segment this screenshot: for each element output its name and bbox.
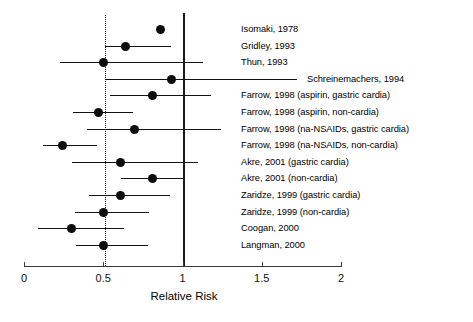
study-row: Gridley, 1993 — [0, 39, 473, 55]
axis-tick — [183, 262, 184, 267]
study-label: Schreinemachers, 1994 — [307, 72, 404, 87]
point-estimate-marker — [99, 241, 108, 250]
confidence-interval-line — [76, 245, 147, 246]
study-row: Langman, 2000 — [0, 238, 473, 254]
study-label: Farrow, 1998 (na-NSAIDs, gastric cardia) — [241, 122, 409, 137]
study-row: Coogan, 2000 — [0, 221, 473, 237]
study-label: Coogan, 2000 — [241, 221, 299, 236]
x-axis: 00.511.52 Relative Risk — [0, 266, 473, 322]
study-row: Farrow, 1998 (aspirin, non-cardia) — [0, 105, 473, 121]
confidence-interval-line — [105, 79, 297, 80]
confidence-interval-line — [110, 95, 211, 96]
study-row: Thun, 1993 — [0, 55, 473, 71]
study-row: Zaridze, 1999 (non-cardia) — [0, 205, 473, 221]
point-estimate-marker — [116, 191, 125, 200]
axis-tick-label: 0.5 — [96, 272, 111, 284]
point-estimate-marker — [116, 158, 125, 167]
study-label: Gridley, 1993 — [241, 39, 295, 54]
forest-plot-figure: Isomaki, 1978Gridley, 1993Thun, 1993Schr… — [0, 0, 473, 322]
axis-tick — [103, 262, 104, 267]
confidence-interval-line — [72, 162, 199, 163]
confidence-interval-line — [75, 212, 149, 213]
confidence-interval-line — [105, 46, 172, 47]
confidence-interval-line — [89, 195, 170, 196]
study-row: Farrow, 1998 (na-NSAIDs, non-cardia) — [0, 138, 473, 154]
point-estimate-marker — [121, 42, 130, 51]
study-label: Akre, 2001 (non-cardia) — [241, 171, 338, 186]
study-row: Zaridze, 1999 (gastric cardia) — [0, 188, 473, 204]
confidence-interval-line — [38, 228, 124, 229]
axis-tick — [262, 262, 263, 267]
study-label: Akre, 2001 (gastric cardia) — [241, 155, 349, 170]
study-row: Schreinemachers, 1994 — [0, 72, 473, 88]
confidence-interval-line — [87, 129, 220, 130]
plot-area: Isomaki, 1978Gridley, 1993Thun, 1993Schr… — [0, 0, 473, 270]
study-row: Akre, 2001 (non-cardia) — [0, 171, 473, 187]
point-estimate-marker — [130, 125, 139, 134]
confidence-interval-line — [60, 62, 203, 63]
axis-tick-label: 1 — [179, 272, 185, 284]
study-row: Isomaki, 1978 — [0, 22, 473, 38]
point-estimate-marker — [94, 108, 103, 117]
axis-tick — [24, 262, 25, 267]
axis-title-label: Relative Risk — [150, 290, 217, 302]
point-estimate-marker — [148, 174, 157, 183]
study-row: Farrow, 1998 (na-NSAIDs, gastric cardia) — [0, 122, 473, 138]
point-estimate-marker — [99, 208, 108, 217]
axis-tick — [341, 262, 342, 267]
confidence-interval-line — [43, 145, 97, 146]
axis-tick-label: 0 — [21, 272, 27, 284]
point-estimate-marker — [156, 25, 165, 34]
study-row: Farrow, 1998 (aspirin, gastric cardia) — [0, 88, 473, 104]
study-label: Langman, 2000 — [241, 238, 305, 253]
study-label: Farrow, 1998 (aspirin, gastric cardia) — [241, 88, 390, 103]
axis-tick-label: 1.5 — [254, 272, 269, 284]
confidence-interval-line — [73, 112, 133, 113]
point-estimate-marker — [67, 224, 76, 233]
study-label: Farrow, 1998 (na-NSAIDs, non-cardia) — [241, 138, 398, 153]
point-estimate-marker — [58, 141, 67, 150]
study-label: Thun, 1993 — [241, 55, 288, 70]
study-label: Zaridze, 1999 (non-cardia) — [241, 205, 349, 220]
point-estimate-marker — [99, 58, 108, 67]
study-label: Farrow, 1998 (aspirin, non-cardia) — [241, 105, 379, 120]
point-estimate-marker — [148, 91, 157, 100]
study-label: Zaridze, 1999 (gastric cardia) — [241, 188, 360, 203]
study-row: Akre, 2001 (gastric cardia) — [0, 155, 473, 171]
study-label: Isomaki, 1978 — [241, 22, 298, 37]
point-estimate-marker — [167, 75, 176, 84]
axis-tick-label: 2 — [338, 272, 344, 284]
